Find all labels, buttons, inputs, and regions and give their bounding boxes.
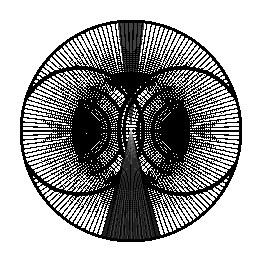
owl-moire-disc: [0, 0, 259, 266]
artwork-canvas: [0, 0, 259, 266]
